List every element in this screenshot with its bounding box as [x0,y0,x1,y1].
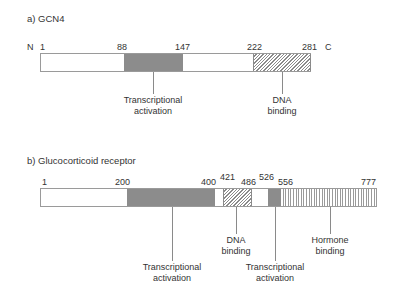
label-line-2: binding [311,246,348,257]
tick-1: 1 [42,177,47,187]
label-line-1: Hormone [311,235,348,246]
label-transcriptional-activation-1: Transcriptional activation [143,262,202,283]
tick-421: 421 [220,172,235,182]
domain-transcriptional-activation [124,54,183,71]
label-transcriptional-activation: Transcriptional activation [124,95,183,116]
leader-line [236,207,237,234]
protein-bar-gr [40,188,377,207]
label-line-1: Transcriptional [143,262,202,273]
label-line-2: activation [246,273,305,284]
tick-486: 486 [241,177,256,187]
tick-526: 526 [259,172,274,182]
leader-line [330,207,331,234]
domain-dna-binding [223,189,252,206]
tick-400: 400 [201,177,216,187]
label-line-2: binding [267,106,296,117]
label-line-2: activation [124,106,183,117]
label-line-1: Transcriptional [246,262,305,273]
leader-line [153,72,154,94]
label-transcriptional-activation-2: Transcriptional activation [246,262,305,283]
panel-title-gr: b) Glucocorticoid receptor [27,155,136,166]
tick-222: 222 [247,42,262,52]
tick-200: 200 [115,177,130,187]
tick-556: 556 [278,177,293,187]
label-dna-binding: DNA binding [267,95,296,116]
domain-hormone-binding [281,189,376,206]
tick-1: 1 [40,42,45,52]
tick-88: 88 [117,42,127,52]
n-terminus-label: N [27,42,34,52]
domain-transcriptional-activation-2 [268,189,281,206]
c-terminus-label: C [325,42,332,52]
tick-777: 777 [361,177,376,187]
label-line-2: binding [221,246,250,257]
protein-bar-gcn4 [40,53,311,72]
leader-line [172,207,173,261]
tick-281: 281 [302,42,317,52]
tick-147: 147 [175,42,190,52]
leader-line [282,72,283,94]
domain-dna-binding [253,54,311,71]
label-line-1: DNA [267,95,296,106]
label-line-2: activation [143,273,202,284]
label-dna-binding: DNA binding [221,235,250,256]
label-line-1: Transcriptional [124,95,183,106]
domain-transcriptional-activation-1 [127,189,215,206]
leader-line [275,207,276,261]
panel-title-gcn4: a) GCN4 [27,13,64,24]
label-hormone-binding: Hormone binding [311,235,348,256]
label-line-1: DNA [221,235,250,246]
